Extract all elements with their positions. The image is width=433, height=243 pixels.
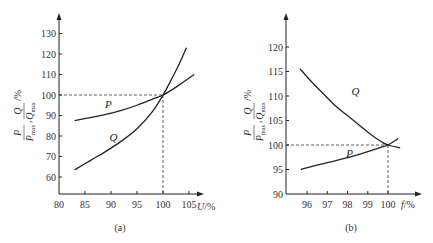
x-tick-label: 95 xyxy=(132,199,142,210)
y-tick-label: 105 xyxy=(268,115,283,126)
y-tick-label: 70 xyxy=(46,151,56,162)
curve-p xyxy=(75,75,195,121)
svg-text:/%: /% xyxy=(12,90,23,101)
svg-text:Qmax: Qmax xyxy=(24,102,36,120)
figure-canvas: 8085909510010560708090100110120130 PQ U/… xyxy=(0,0,433,243)
svg-text:Pmax: Pmax xyxy=(24,125,36,142)
chart-b-caption: (b) xyxy=(345,222,357,234)
curve-label-q: Q xyxy=(352,85,360,97)
y-tick-label: 120 xyxy=(41,49,56,60)
x-axis-arrow-icon xyxy=(197,192,204,197)
curve-q xyxy=(300,69,400,148)
chart-b-curve-labels: QP xyxy=(345,85,359,159)
svg-text:Q: Q xyxy=(12,107,23,115)
y-axis-arrow-icon xyxy=(57,13,62,20)
chart-b: 969798991009095100105110115120 QP f/% (b… xyxy=(242,13,422,234)
y-tick-label: 95 xyxy=(273,164,283,175)
y-tick-label: 100 xyxy=(41,90,56,101)
svg-text:P: P xyxy=(242,130,253,137)
x-axis-arrow-icon xyxy=(415,192,422,197)
svg-text:Q: Q xyxy=(242,107,253,115)
chart-a-curve-labels: PQ xyxy=(104,98,118,143)
y-tick-label: 100 xyxy=(268,140,283,151)
x-tick-label: 97 xyxy=(322,199,332,210)
x-tick-label: 99 xyxy=(363,199,373,210)
chart-b-ylabel: P Pmax , Q Qmax /% xyxy=(242,90,266,142)
x-tick-label: 105 xyxy=(182,199,197,210)
chart-b-ticks: 969798991009095100105110115120 xyxy=(268,42,396,211)
y-tick-label: 115 xyxy=(268,66,283,77)
curve-label-q: Q xyxy=(110,131,118,143)
y-tick-label: 90 xyxy=(46,110,56,121)
svg-text:Qmax: Qmax xyxy=(254,102,266,120)
svg-text:P: P xyxy=(12,130,23,137)
y-tick-label: 110 xyxy=(268,91,283,102)
chart-a-axes xyxy=(57,13,205,197)
svg-text:/%: /% xyxy=(242,90,253,101)
svg-text:,: , xyxy=(252,121,263,124)
svg-text:Pmax: Pmax xyxy=(254,125,266,142)
chart-b-xlabel: f/% xyxy=(401,199,415,210)
chart-a: 8085909510010560708090100110120130 PQ U/… xyxy=(12,13,215,234)
x-tick-label: 90 xyxy=(106,199,116,210)
y-tick-label: 120 xyxy=(268,42,283,53)
y-tick-label: 80 xyxy=(46,131,56,142)
x-tick-label: 98 xyxy=(343,199,353,210)
y-tick-label: 110 xyxy=(41,69,56,80)
x-tick-label: 96 xyxy=(302,199,312,210)
chart-a-ticks: 8085909510010560708090100110120130 xyxy=(41,28,197,210)
x-tick-label: 85 xyxy=(80,199,90,210)
chart-a-caption: (a) xyxy=(114,222,125,234)
curve-label-p: P xyxy=(104,98,112,110)
x-tick-label: 100 xyxy=(156,199,171,210)
figure: 8085909510010560708090100110120130 PQ U/… xyxy=(0,0,433,243)
y-axis-arrow-icon xyxy=(284,13,289,20)
svg-text:,: , xyxy=(22,121,33,124)
chart-a-xlabel: U/% xyxy=(197,201,215,212)
curve-q xyxy=(75,48,187,170)
chart-a-curves xyxy=(75,48,195,170)
y-tick-label: 130 xyxy=(41,28,56,39)
chart-a-ylabel: P Pmax , Q Qmax /% xyxy=(12,90,36,142)
curve-label-p: P xyxy=(345,147,353,159)
y-tick-label: 60 xyxy=(46,172,56,183)
y-tick-label: 90 xyxy=(273,189,283,200)
x-tick-label: 100 xyxy=(381,199,396,210)
x-tick-label: 80 xyxy=(54,199,64,210)
